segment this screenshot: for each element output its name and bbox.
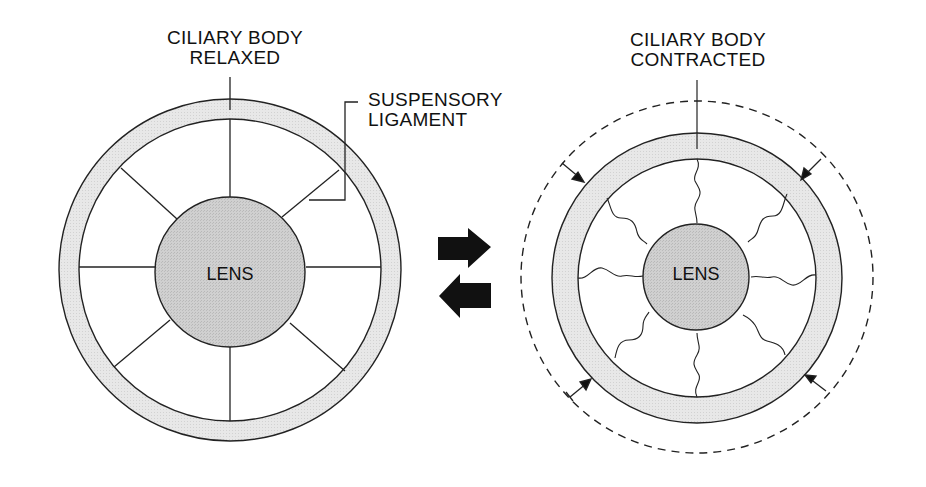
arrow-right-icon bbox=[438, 228, 491, 268]
label-ciliary-relaxed-line1: CILIARY BODY bbox=[140, 28, 330, 48]
label-ciliary-contracted-line2: CONTRACTED bbox=[600, 50, 796, 70]
label-ciliary-contracted-line1: CILIARY BODY bbox=[600, 30, 796, 50]
label-lens-left: LENS bbox=[190, 264, 270, 285]
diagram-canvas bbox=[0, 0, 926, 487]
label-suspensory-ligament: SUSPENSORY LIGAMENT bbox=[368, 90, 508, 130]
left-eye-relaxed bbox=[59, 77, 401, 441]
label-ciliary-relaxed: CILIARY BODY RELAXED bbox=[140, 28, 330, 68]
label-ciliary-contracted: CILIARY BODY CONTRACTED bbox=[600, 30, 796, 70]
label-ligament-line1: SUSPENSORY bbox=[368, 90, 508, 110]
label-ligament-line2: LIGAMENT bbox=[368, 110, 508, 130]
arrow-left-icon bbox=[439, 274, 491, 318]
label-ciliary-relaxed-line2: RELAXED bbox=[140, 48, 330, 68]
transition-arrows bbox=[438, 228, 491, 318]
arrow-in-icon bbox=[580, 379, 591, 390]
label-lens-right: LENS bbox=[656, 264, 736, 285]
